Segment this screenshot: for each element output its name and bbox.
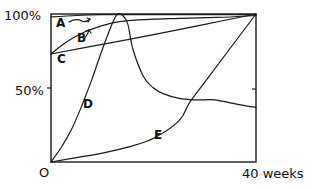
curve-label-b: B <box>77 31 86 45</box>
origin-label: O <box>39 165 49 180</box>
y-label-100: 100% <box>4 8 41 23</box>
curve-label-e: E <box>154 128 162 142</box>
y-label-50: 50% <box>15 83 44 98</box>
curve-label-d: D <box>83 97 93 111</box>
chart: 100% 50% O 40 weeks A B C D E <box>0 0 315 189</box>
curve-label-c: C <box>57 52 66 66</box>
x-label-40-weeks: 40 weeks <box>242 166 304 181</box>
curve-a-pointer-arrow <box>69 19 90 22</box>
curve-label-a: A <box>56 16 66 30</box>
